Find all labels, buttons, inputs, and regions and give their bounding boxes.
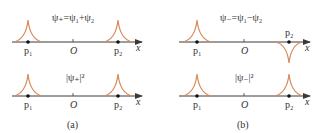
peak-p2-up xyxy=(104,20,132,42)
label-p1: p₁ xyxy=(24,45,33,56)
peak-p2-up xyxy=(275,74,303,96)
panel-b-top-title: ψ₋=ψ₁−ψ₂ xyxy=(220,12,262,23)
peak-p2-down xyxy=(276,42,302,63)
point-p1 xyxy=(26,94,30,98)
label-p1: p₁ xyxy=(193,45,202,56)
peak-p1-up xyxy=(14,20,42,42)
point-p2 xyxy=(287,40,291,44)
panel-a-top-plot: ψ₊=ψ₁+ψ₂ p₁ O p₂ x xyxy=(12,12,142,56)
panel-b: ψ₋=ψ₁−ψ₂ p₁ O p₂ x |ψ₋|² p₁ O p₂ x ( xyxy=(179,12,310,131)
panel-a-bottom-plot: |ψ₊|² p₁ O p₂ x xyxy=(12,72,142,110)
label-p1: p₁ xyxy=(193,99,202,110)
point-p1 xyxy=(195,40,199,44)
peak-p2-up xyxy=(104,74,132,96)
label-origin: O xyxy=(70,45,77,56)
point-p2 xyxy=(116,94,120,98)
caption-a: (a) xyxy=(67,119,78,131)
peak-p1-up xyxy=(14,74,42,96)
label-p2: p₂ xyxy=(114,45,123,56)
label-origin: O xyxy=(70,99,77,110)
panel-a-top-title: ψ₊=ψ₁+ψ₂ xyxy=(52,12,94,23)
panel-b-bottom-title: |ψ₋|² xyxy=(235,72,254,83)
label-p2: p₂ xyxy=(285,99,294,110)
point-p1 xyxy=(26,40,30,44)
label-origin: O xyxy=(241,99,248,110)
panel-b-top-plot: ψ₋=ψ₁−ψ₂ p₁ O p₂ x xyxy=(179,12,310,63)
peak-p1-up xyxy=(183,74,211,96)
label-p2: p₂ xyxy=(285,27,294,38)
point-p2 xyxy=(116,40,120,44)
label-origin: O xyxy=(241,45,248,56)
point-p2 xyxy=(287,94,291,98)
label-x-axis: x xyxy=(135,42,141,53)
panel-a: ψ₊=ψ₁+ψ₂ p₁ O p₂ x |ψ₊|² p₁ O p₂ x ( xyxy=(12,12,142,131)
point-p1 xyxy=(195,94,199,98)
diagram-canvas: ψ₊=ψ₁+ψ₂ p₁ O p₂ x |ψ₊|² p₁ O p₂ x ( xyxy=(0,0,329,133)
peak-p1-up xyxy=(183,20,211,42)
label-p2: p₂ xyxy=(114,99,123,110)
label-x-axis: x xyxy=(304,96,310,107)
panel-b-bottom-plot: |ψ₋|² p₁ O p₂ x xyxy=(179,72,310,110)
label-p1: p₁ xyxy=(24,99,33,110)
label-x-axis: x xyxy=(135,96,141,107)
panel-a-bottom-title: |ψ₊|² xyxy=(66,72,85,83)
caption-b: (b) xyxy=(237,119,249,131)
label-x-axis: x xyxy=(304,42,310,53)
